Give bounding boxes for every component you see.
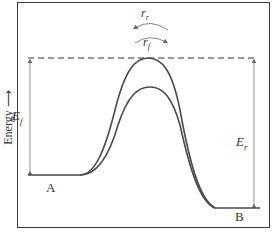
uncatalyzed-curve [28, 58, 260, 208]
reverse-rate-label: rr [141, 6, 149, 22]
ef-letter: E [12, 108, 20, 123]
forward-rate-arrow [135, 38, 166, 43]
ef-label: Ef [12, 108, 22, 126]
reverse-rate-arrow [135, 23, 168, 30]
er-subscript: r [244, 142, 248, 152]
rr-subscript: r [146, 13, 149, 22]
state-b-label: B [235, 209, 244, 225]
catalyzed-curve [80, 87, 215, 208]
forward-rate-label: rf [143, 35, 150, 51]
state-a-label: A [46, 180, 55, 196]
er-label: Er [236, 134, 247, 152]
energy-diagram [0, 0, 274, 232]
rf-subscript: f [148, 42, 150, 51]
ef-subscript: f [20, 116, 23, 126]
er-letter: E [236, 134, 244, 149]
